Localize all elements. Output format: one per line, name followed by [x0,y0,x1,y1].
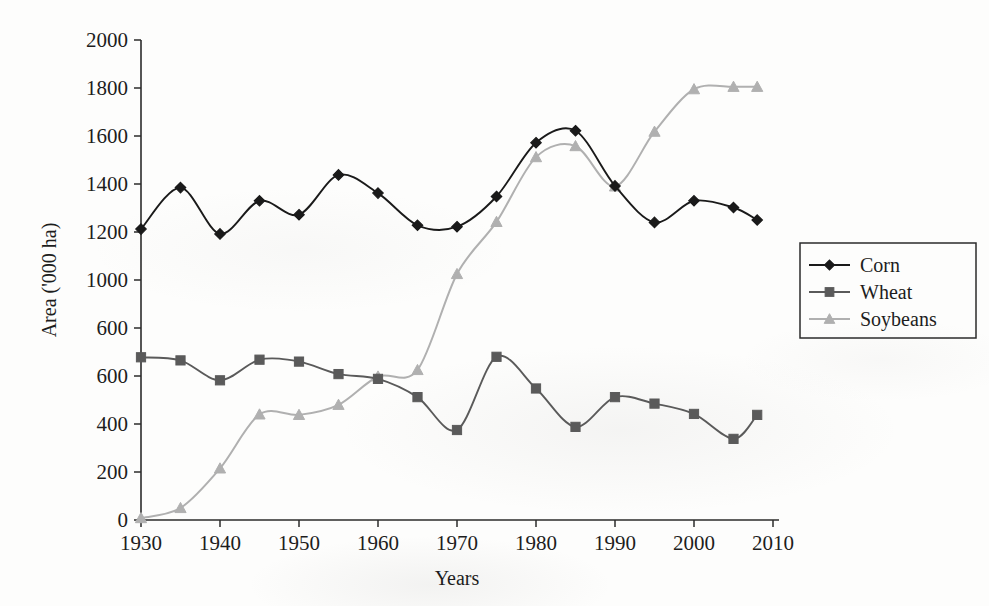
series-corn [136,126,763,240]
x-tick-label: 1940 [199,531,241,555]
series-wheat [136,352,761,443]
x-tick-label: 1960 [357,531,399,555]
y-tick-label: 1800 [86,76,128,100]
x-tick-label: 1990 [594,531,636,555]
data-point-marker [752,215,762,225]
data-point-marker [412,364,423,374]
y-tick-label: 1400 [86,172,128,196]
data-point-marker [215,376,224,385]
data-point-marker [215,229,225,239]
x-tick-label: 1950 [278,531,320,555]
legend-label: Corn [860,254,900,276]
y-tick-label: 0 [118,508,129,532]
data-point-marker [333,170,343,180]
data-point-marker [689,196,699,206]
area-by-crop-line-chart: 2000180016001400120010006006004002000193… [0,0,989,606]
data-point-marker [728,202,738,212]
x-axis-title: Years [435,567,480,589]
data-point-marker [452,222,462,232]
y-tick-label: 1000 [86,268,128,292]
x-axis-ticks: 193019401950196019701980199020002010 [120,520,794,555]
data-point-marker [688,84,699,94]
legend-item-wheat[interactable]: Wheat [809,281,913,303]
data-point-marker [689,409,698,418]
data-point-marker [175,182,185,192]
y-tick-label: 2000 [86,28,128,52]
data-point-marker [729,434,738,443]
series-line [141,128,757,234]
axes [141,40,779,520]
x-tick-label: 1970 [436,531,478,555]
data-point-marker [491,216,502,226]
data-point-marker [650,399,659,408]
data-point-marker [176,356,185,365]
x-tick-label: 2000 [673,531,715,555]
y-tick-label: 200 [97,460,129,484]
y-tick-label: 600 [97,364,129,388]
data-point-marker [753,410,762,419]
chart-legend: CornWheatSoybeans [800,243,976,338]
data-point-marker [492,352,501,361]
data-point-marker [531,384,540,393]
data-point-marker [254,196,264,206]
legend-label: Wheat [860,281,913,303]
series-line [141,85,757,518]
data-point-marker [333,399,344,409]
y-tick-label: 1200 [86,220,128,244]
data-point-marker [412,220,422,230]
data-point-marker [294,210,304,220]
data-point-marker [825,288,834,297]
data-point-marker [451,268,462,278]
data-point-marker [413,393,422,402]
series-soybeans [135,81,762,522]
y-axis-title: Area ('000 ha) [38,223,61,338]
data-point-marker [136,353,145,362]
legend-item-soybeans[interactable]: Soybeans [809,308,937,331]
data-point-marker [571,422,580,431]
data-point-marker [452,425,461,434]
chart-page: 2000180016001400120010006006004002000193… [0,0,989,606]
y-axis-ticks: 2000180016001400120010006006004002000 [86,28,141,532]
legend-item-corn[interactable]: Corn [809,254,900,276]
y-tick-label: 1600 [86,124,128,148]
data-point-marker [294,357,303,366]
data-point-marker [254,409,265,419]
data-point-marker [649,217,659,227]
data-point-marker [610,393,619,402]
legend-label: Soybeans [860,308,937,331]
series-line [141,356,757,439]
y-axis-title-text: Area ('000 ha) [38,223,61,338]
x-tick-label: 2010 [752,531,794,555]
data-point-marker [175,502,186,512]
data-point-marker [255,355,264,364]
data-point-marker [373,374,382,383]
y-tick-label: 400 [97,412,129,436]
y-tick-label: 600 [97,316,129,340]
data-point-marker [825,260,835,270]
x-tick-label: 1980 [515,531,557,555]
data-point-marker [334,369,343,378]
x-tick-label: 1930 [120,531,162,555]
